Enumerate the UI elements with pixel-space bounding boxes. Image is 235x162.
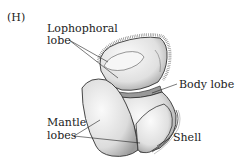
label-lophophoral-lobe-line2: lobe [47, 35, 71, 47]
label-mantle-lobes-line2: lobes [47, 130, 76, 142]
label-body-lobe: Body lobe [179, 79, 234, 91]
label-mantle-lobes-line1: Mantle [47, 117, 86, 129]
label-shell: Shell [173, 132, 201, 144]
panel-label: (H) [7, 12, 25, 24]
